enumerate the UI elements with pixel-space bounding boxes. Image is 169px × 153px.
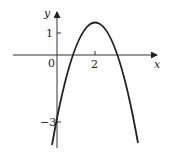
y-axis-label: y xyxy=(43,7,51,20)
y-tick-label-1: 1 xyxy=(46,27,53,40)
x-axis-label: x xyxy=(154,58,161,71)
y-tick-label-neg3: −3 xyxy=(40,116,56,129)
parabola-curve xyxy=(52,22,138,145)
origin-label: 0 xyxy=(48,57,55,70)
x-tick-label-2: 2 xyxy=(91,58,98,71)
parabola-graph: y x 0 2 1 −3 xyxy=(0,0,169,153)
